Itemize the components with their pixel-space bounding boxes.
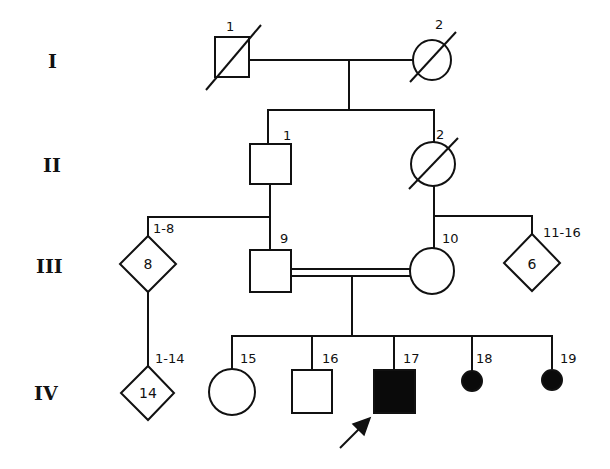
individual-IV-16: 16 xyxy=(292,351,339,413)
id-label: 19 xyxy=(560,351,577,366)
generation-label-1: I xyxy=(48,50,57,72)
id-label: 10 xyxy=(442,231,459,246)
sibship-line xyxy=(232,336,552,369)
proband-arrow-icon xyxy=(340,418,370,448)
individual-IV-19: 19 xyxy=(542,351,577,390)
male-square xyxy=(250,250,291,292)
id-label: 1-8 xyxy=(153,221,174,236)
id-label: 16 xyxy=(322,351,339,366)
individual-IV-17: 17 xyxy=(374,351,420,413)
id-label: 15 xyxy=(240,351,257,366)
generation-label-4: IV xyxy=(34,382,59,404)
affected-male-square xyxy=(374,370,415,413)
id-label: 9 xyxy=(280,231,288,246)
generation-label-3: III xyxy=(36,255,63,277)
id-label: 17 xyxy=(403,351,420,366)
count-label: 6 xyxy=(528,256,537,272)
pedigree-chart: I II III IV 1 2 1 2 8 1-8 9 10 xyxy=(0,0,610,469)
id-label: 2 xyxy=(435,17,443,32)
sibship-line xyxy=(268,110,434,145)
count-label: 14 xyxy=(139,385,157,401)
individual-II-1: 1 xyxy=(250,128,291,184)
male-square xyxy=(250,144,291,184)
id-label: 1 xyxy=(283,128,291,143)
individual-IV-1-14: 14 1-14 xyxy=(121,351,185,420)
female-circle xyxy=(410,248,454,294)
generation-label-2: II xyxy=(43,154,61,176)
affected-female-circle xyxy=(542,370,562,390)
female-circle xyxy=(209,369,255,415)
id-label: 1-14 xyxy=(155,351,185,366)
affected-female-circle xyxy=(462,371,482,391)
individual-IV-18: 18 xyxy=(462,351,493,391)
male-square xyxy=(215,37,249,77)
individual-I-1: 1 xyxy=(206,19,261,90)
id-label: 11-16 xyxy=(543,225,581,240)
male-square xyxy=(292,370,332,413)
count-label: 8 xyxy=(144,256,153,272)
individual-I-2: 2 xyxy=(410,17,456,82)
id-label: 1 xyxy=(226,19,234,34)
id-label: 2 xyxy=(436,127,444,142)
id-label: 18 xyxy=(476,351,493,366)
individual-III-11-16: 6 11-16 xyxy=(504,225,581,291)
